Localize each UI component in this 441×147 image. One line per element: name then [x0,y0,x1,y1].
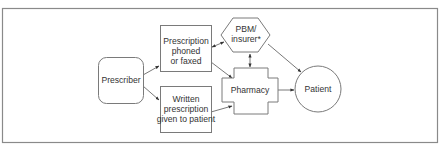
written-label-line-1: Written [172,94,199,104]
written-label-line-2: prescription [164,104,209,114]
pbm-label-line-1: PBM/ [235,24,257,34]
written-label-line-3: given to patient [157,114,216,124]
node-written: Written prescription given to patient [157,87,216,133]
phoned-label-line-2: phoned [172,46,201,56]
diagram-canvas: Prescriber Prescription phoned or faxed … [0,0,441,147]
patient-label: Patient [305,84,332,94]
node-phoned: Prescription phoned or faxed [161,26,212,72]
node-patient: Patient [295,66,341,112]
pharmacy-label: Pharmacy [231,85,270,95]
pbm-label-line-2: insurer* [231,34,261,44]
diagram-frame [3,9,438,143]
node-prescriber: Prescriber [99,58,144,104]
prescriber-label: Prescriber [101,75,140,85]
phoned-label-line-1: Prescription [163,36,209,46]
phoned-label-line-3: or faxed [170,56,201,66]
